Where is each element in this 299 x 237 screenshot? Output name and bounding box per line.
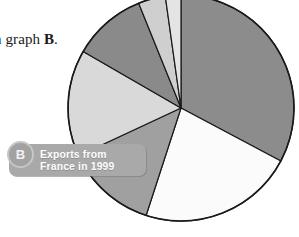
chart-figure: n graph B. B Exports from France in 1999	[0, 0, 299, 237]
callout-badge-letter: B	[7, 141, 34, 168]
callout-line-2: France in 1999	[40, 160, 114, 173]
callout-line-1: Exports from	[40, 148, 114, 161]
callout-text: Exports from France in 1999	[40, 148, 114, 173]
pie-chart	[0, 0, 299, 237]
chart-callout-label: B Exports from France in 1999	[9, 144, 146, 176]
pie-chart-svg	[0, 0, 299, 237]
